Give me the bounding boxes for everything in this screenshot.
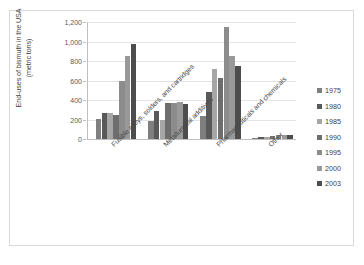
legend-swatch-icon	[317, 88, 322, 93]
legend-item-1980[interactable]: 1980	[317, 99, 363, 115]
chart-legend: 1975198019851990199520002003	[317, 83, 363, 192]
legend-swatch-icon	[317, 181, 322, 186]
legend-label: 2003	[325, 180, 341, 187]
legend-item-1995[interactable]: 1995	[317, 145, 363, 161]
legend-item-2003[interactable]: 2003	[317, 176, 363, 192]
legend-label: 1985	[325, 118, 341, 125]
legend-item-1990[interactable]: 1990	[317, 130, 363, 146]
legend-label: 1975	[325, 87, 341, 94]
x-axis-category-labels: Fusible alloys, solders, and cartridgesM…	[10, 11, 353, 245]
legend-item-1975[interactable]: 1975	[317, 83, 363, 99]
legend-swatch-icon	[317, 119, 322, 124]
chart-frame: End-uses of bismuth in the USA (metric t…	[9, 10, 354, 246]
legend-label: 1995	[325, 149, 341, 156]
x-axis-label-2: Metallurgical additives	[162, 96, 214, 148]
x-axis-label-1: Fusible alloys, solders, and cartridges	[110, 63, 195, 148]
legend-item-2000[interactable]: 2000	[317, 161, 363, 177]
legend-item-1985[interactable]: 1985	[317, 114, 363, 130]
legend-swatch-icon	[317, 150, 322, 155]
legend-swatch-icon	[317, 104, 322, 109]
legend-label: 2000	[325, 165, 341, 172]
legend-label: 1980	[325, 103, 341, 110]
legend-swatch-icon	[317, 135, 322, 140]
legend-swatch-icon	[317, 166, 322, 171]
x-axis-label-4: Other	[267, 131, 284, 148]
legend-label: 1990	[325, 134, 341, 141]
